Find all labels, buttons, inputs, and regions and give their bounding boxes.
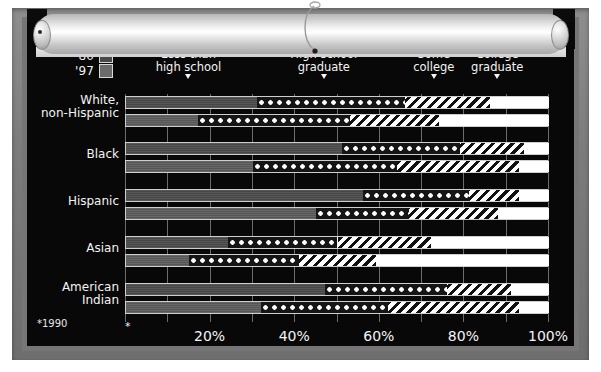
category-label-line2: non-Hispanic bbox=[41, 106, 119, 120]
bar-row-2-1980 bbox=[125, 142, 548, 155]
bar-row-4-1980-segment-1 bbox=[126, 237, 228, 248]
bar-row-5-1997 bbox=[125, 301, 548, 314]
roller-cap-left-icon bbox=[33, 20, 51, 50]
bar-row-3-1997-segment-3 bbox=[409, 208, 498, 219]
bar-row-4-1997-segment-4 bbox=[376, 255, 549, 266]
category-label-1: White,non-Hispanic bbox=[27, 94, 119, 120]
bar-row-3-1980-segment-3 bbox=[469, 190, 520, 201]
bar-row-3-1980-segment-1 bbox=[126, 190, 363, 201]
bar-row-4-1980-segment-3 bbox=[338, 237, 431, 248]
category-label-3: Hispanic bbox=[27, 195, 119, 208]
bar-row-5-1997-segment-3 bbox=[388, 302, 519, 313]
swatch-1997-icon bbox=[99, 64, 113, 78]
bar-row-5-1997-segment-4 bbox=[519, 302, 549, 313]
category-label-line1: Black bbox=[87, 147, 119, 161]
x-axis-label-60: 60% bbox=[363, 328, 394, 344]
bar-row-4-1980-segment-2 bbox=[228, 237, 338, 248]
category-label-line1: Hispanic bbox=[68, 194, 119, 208]
bar-row-4-1980-segment-4 bbox=[431, 237, 549, 248]
bar-row-2-1997-segment-3 bbox=[397, 161, 520, 172]
bar-row-2-1997-segment-1 bbox=[126, 161, 253, 172]
bar-row-2-1997 bbox=[125, 160, 548, 173]
bar-row-1-1997-segment-3 bbox=[350, 115, 439, 126]
x-axis-label-80: 80% bbox=[448, 328, 479, 344]
bar-row-1-1980 bbox=[125, 96, 548, 109]
category-label-line1: Asian bbox=[86, 241, 119, 255]
segment-pointer-icon bbox=[185, 74, 191, 79]
bar-row-1-1980-segment-1 bbox=[126, 97, 257, 108]
roller-pin-left-icon bbox=[38, 30, 42, 34]
bar-row-3-1980-segment-2 bbox=[363, 190, 469, 201]
bars-container bbox=[125, 94, 549, 322]
bar-row-4-1980 bbox=[125, 236, 548, 249]
bar-row-4-1997-segment-1 bbox=[126, 255, 189, 266]
bar-row-3-1997-segment-2 bbox=[316, 208, 409, 219]
bar-row-2-1980-segment-3 bbox=[460, 143, 523, 154]
legend-label-1997: '97 bbox=[75, 64, 94, 78]
bar-row-3-1997 bbox=[125, 207, 548, 220]
x-axis: * 20%40%60%80%100% bbox=[125, 324, 549, 346]
blind-pull-cord[interactable] bbox=[300, 0, 340, 58]
chart-poster: '80 '97 Less thanhigh schoolHigh schoolg… bbox=[0, 0, 601, 372]
bar-row-1-1997 bbox=[125, 114, 548, 127]
bar-row-4-1997 bbox=[125, 254, 548, 267]
bar-row-2-1997-segment-2 bbox=[253, 161, 397, 172]
bar-row-5-1980-segment-1 bbox=[126, 284, 325, 295]
x-axis-label-20: 20% bbox=[194, 328, 225, 344]
bar-row-5-1980-segment-3 bbox=[447, 284, 510, 295]
bar-row-5-1980 bbox=[125, 283, 548, 296]
axis-footnote-star: * bbox=[125, 320, 131, 333]
bar-row-5-1997-segment-1 bbox=[126, 302, 261, 313]
x-axis-label-100: 100% bbox=[528, 328, 568, 344]
category-label-2: Black bbox=[27, 148, 119, 161]
bar-row-1-1997-segment-2 bbox=[198, 115, 350, 126]
segment-header-line2: graduate bbox=[471, 60, 523, 74]
bar-row-1-1980-segment-2 bbox=[257, 97, 405, 108]
bar-row-1-1997-segment-4 bbox=[439, 115, 549, 126]
category-label-line2: Indian bbox=[82, 293, 119, 307]
segment-pointer-icon bbox=[431, 74, 437, 79]
bar-row-4-1997-segment-2 bbox=[189, 255, 299, 266]
bar-row-3-1997-segment-4 bbox=[498, 208, 549, 219]
bar-row-5-1980-segment-2 bbox=[325, 284, 448, 295]
bar-row-5-1997-segment-2 bbox=[261, 302, 388, 313]
bar-row-3-1997-segment-1 bbox=[126, 208, 316, 219]
bar-row-2-1980-segment-1 bbox=[126, 143, 342, 154]
bar-row-3-1980 bbox=[125, 189, 548, 202]
category-label-line1: White, bbox=[80, 93, 119, 107]
category-label-5: AmericanIndian bbox=[27, 281, 119, 307]
segment-header-line2: high school bbox=[156, 60, 222, 74]
bar-row-1-1980-segment-4 bbox=[490, 97, 549, 108]
chalkboard-panel: '80 '97 Less thanhigh schoolHigh schoolg… bbox=[27, 22, 574, 346]
segment-header-line2: graduate bbox=[298, 60, 350, 74]
bar-row-2-1980-segment-4 bbox=[524, 143, 549, 154]
bar-row-5-1980-segment-4 bbox=[511, 284, 549, 295]
chart-plot-area: '80 '97 Less thanhigh schoolHigh schoolg… bbox=[27, 22, 574, 346]
bar-row-2-1997-segment-4 bbox=[519, 161, 549, 172]
footnote: *1990 bbox=[37, 318, 67, 329]
category-label-line1: American bbox=[62, 280, 119, 294]
segment-pointer-icon bbox=[321, 74, 327, 79]
x-axis-label-40: 40% bbox=[279, 328, 310, 344]
bar-row-1-1997-segment-1 bbox=[126, 115, 198, 126]
roller-cap-right-icon bbox=[551, 20, 569, 50]
category-label-4: Asian bbox=[27, 242, 119, 255]
bar-row-3-1980-segment-4 bbox=[519, 190, 549, 201]
legend-item-1997: '97 bbox=[75, 63, 113, 78]
segment-pointer-icon bbox=[494, 74, 500, 79]
bar-row-4-1997-segment-3 bbox=[299, 255, 375, 266]
bar-row-2-1980-segment-2 bbox=[342, 143, 460, 154]
bar-row-1-1980-segment-3 bbox=[405, 97, 490, 108]
